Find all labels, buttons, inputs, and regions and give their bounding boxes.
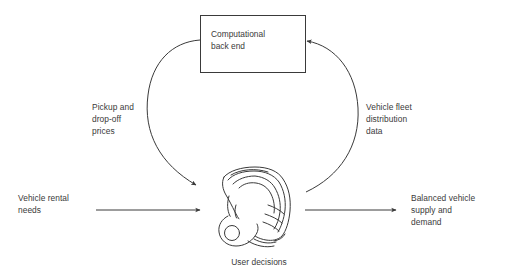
right-arc-flow xyxy=(306,41,358,192)
three-wheeled-scooter-illustration xyxy=(219,167,290,247)
left-arc-flow xyxy=(147,40,200,185)
left-arc-label: Pickup and drop-off prices xyxy=(92,101,154,138)
diagram-canvas: Computational back end Pickup and drop-o… xyxy=(0,0,509,279)
right-arc-label: Vehicle fleet distribution data xyxy=(366,101,432,138)
output-label: Balanced vehicle supply and demand xyxy=(411,192,497,229)
input-label: Vehicle rental needs xyxy=(18,192,94,216)
computational-backend-label: Computational back end xyxy=(211,28,299,52)
vehicle-caption: User decisions xyxy=(219,256,299,268)
